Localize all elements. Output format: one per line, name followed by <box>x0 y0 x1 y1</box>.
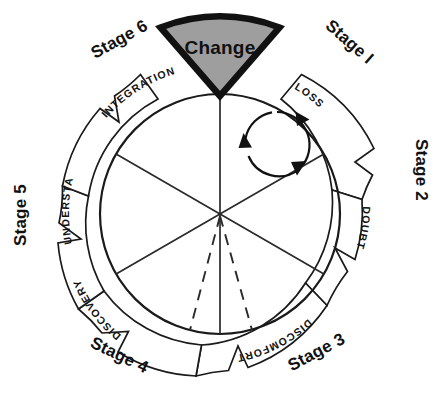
change-cycle-diagram: Change Stage I Stage 2 Stage 3 Stage 4 S… <box>0 0 438 409</box>
dashed-line-left <box>190 216 220 330</box>
change-cycle-graphic: Change Stage I Stage 2 Stage 3 Stage 4 S… <box>0 0 438 409</box>
dashed-line-right <box>220 216 252 330</box>
spoke-upper-right <box>220 154 324 214</box>
stage-label-1: Stage I <box>322 16 378 68</box>
stage-label-5: Stage 5 <box>11 184 30 246</box>
stage-label-6: Stage 6 <box>88 16 151 63</box>
cyclical-arrow-arc-3 <box>246 112 273 138</box>
spokes-group <box>116 94 324 334</box>
spoke-upper-left <box>116 154 220 214</box>
spoke-lower-left <box>116 214 220 274</box>
ring-segment-integration[interactable] <box>63 75 159 197</box>
change-label: Change <box>185 37 256 58</box>
dashed-wedge-group <box>190 216 252 330</box>
ring-segment-loss[interactable] <box>281 75 374 200</box>
spoke-lower-right <box>220 214 324 274</box>
cyclical-arrow-arc-2 <box>249 156 300 176</box>
stage-label-2: Stage 2 <box>412 139 431 201</box>
cyclical-motion-arrow <box>239 112 310 177</box>
